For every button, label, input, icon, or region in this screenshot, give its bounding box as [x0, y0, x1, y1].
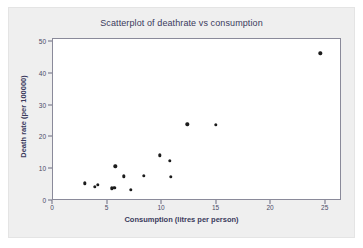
y-tick-label: 0	[24, 197, 46, 204]
x-tick-mark	[52, 200, 53, 204]
data-point-layer	[52, 38, 341, 200]
data-point	[158, 154, 161, 157]
x-tick-label: 5	[105, 204, 109, 211]
chart-title: Scatterplot of deathrate vs consumption	[8, 18, 355, 28]
x-tick-label: 0	[50, 204, 54, 211]
figure-panel: Scatterplot of deathrate vs consumption …	[8, 7, 355, 238]
data-point	[83, 181, 86, 184]
x-tick-mark	[106, 200, 107, 204]
x-tick-mark	[161, 200, 162, 204]
data-point	[214, 123, 217, 126]
x-tick-mark	[215, 200, 216, 204]
x-tick-mark	[324, 200, 325, 204]
x-tick-label: 25	[321, 204, 328, 211]
data-point	[96, 183, 99, 186]
data-point	[168, 159, 171, 162]
data-point	[142, 174, 145, 177]
data-point	[169, 175, 172, 178]
y-axis-title: Death rate (per 100000)	[19, 42, 28, 192]
x-tick-mark	[270, 200, 271, 204]
data-point	[112, 186, 115, 189]
x-axis-title: Consumption (litres per person)	[8, 215, 355, 224]
data-point	[129, 188, 132, 191]
x-tick-label: 10	[157, 204, 164, 211]
x-tick-label: 15	[212, 204, 219, 211]
data-point	[122, 175, 125, 178]
x-tick-label: 20	[266, 204, 273, 211]
scatterplot-chart: Scatterplot of deathrate vs consumption …	[8, 7, 355, 238]
data-point	[186, 123, 189, 126]
data-point	[114, 165, 117, 168]
data-point	[319, 52, 322, 55]
